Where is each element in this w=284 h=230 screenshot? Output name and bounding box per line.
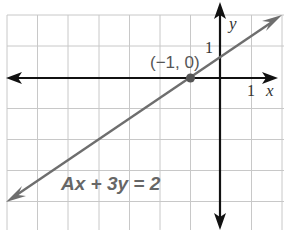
line-upper-right-arrow-icon bbox=[262, 15, 282, 31]
x-tick-label: 1 bbox=[247, 82, 255, 99]
equation-label: Ax + 3y = 2 bbox=[60, 173, 161, 194]
point-label: (−1, 0) bbox=[150, 53, 200, 72]
coordinate-graph: (−1, 0) y x 1 1 Ax + 3y = 2 bbox=[0, 0, 284, 230]
point-marker bbox=[186, 74, 195, 83]
x-axis-label: x bbox=[265, 81, 274, 100]
grid bbox=[7, 15, 284, 230]
y-axis-label: y bbox=[227, 14, 237, 33]
y-axis bbox=[214, 2, 226, 230]
line-lower-left-arrow-icon bbox=[6, 186, 26, 202]
y-tick-label: 1 bbox=[205, 39, 213, 56]
x-axis bbox=[6, 72, 278, 84]
